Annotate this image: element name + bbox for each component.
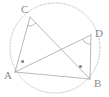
vertex-label-C: C [21,3,28,15]
vertex-label-A: A [4,69,12,81]
segment-AB [15,72,90,79]
segment-DB [90,35,91,79]
right-angle-square-at-B-icon [79,65,82,68]
geometry-figure: C D A B [0,0,109,97]
vertex-label-B: B [94,77,101,89]
segment-CB [30,17,90,79]
vertex-label-D: D [95,27,103,39]
right-angle-square-at-A-icon [21,60,24,63]
circumscribed-circle [10,3,100,93]
right-angle-arc-at-C-icon [28,22,37,26]
figure-canvas: C D A B [0,0,109,97]
segment-CA [15,17,30,72]
right-angle-arc-at-D-icon [83,39,91,44]
